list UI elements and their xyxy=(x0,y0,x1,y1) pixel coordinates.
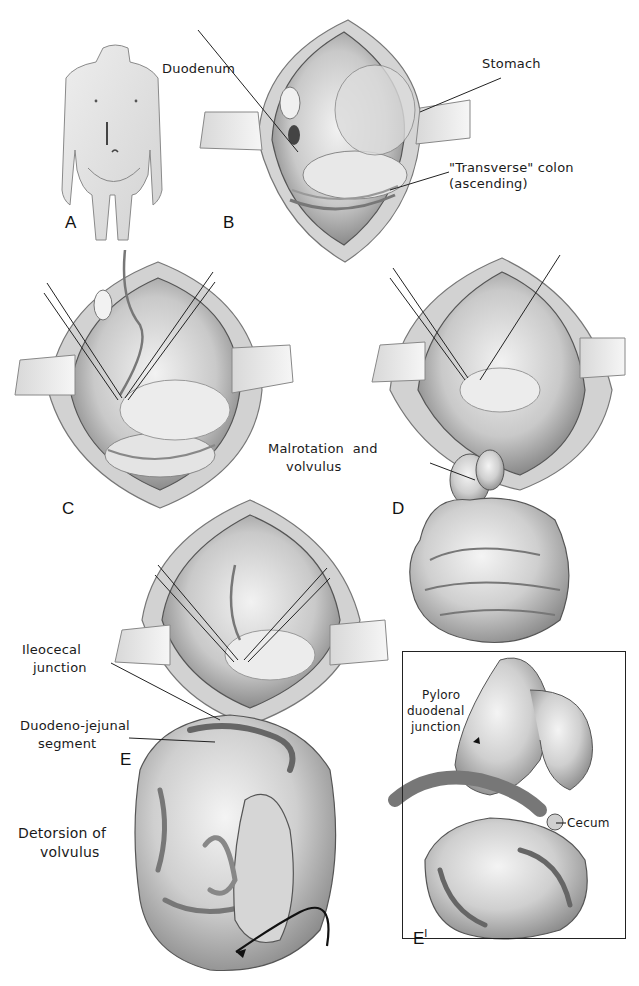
label-stomach: Stomach xyxy=(482,56,541,71)
label-detorsion-2: volvulus xyxy=(40,845,100,860)
panel-a-child-figure xyxy=(62,45,162,240)
label-ileocecal-1: Ileocecal xyxy=(22,642,81,657)
label-malrotation-1: Malrotation and xyxy=(268,441,378,456)
panel-letter-a: A xyxy=(65,214,76,232)
panel-letter-b: B xyxy=(223,214,234,232)
label-pyloro-1: Pyloro xyxy=(422,688,460,703)
label-duodenojejunal-2: segment xyxy=(38,736,96,751)
label-cecum: Cecum xyxy=(567,816,610,831)
panel-e-detorsion xyxy=(111,500,388,971)
label-detorsion-1: Detorsion of xyxy=(18,826,106,841)
panel-letter-c: C xyxy=(62,500,74,518)
panel-letter-e1-base: E xyxy=(413,929,424,948)
label-duodenojejunal-1: Duodeno-jejunal xyxy=(20,718,130,733)
label-pyloro-3: junction xyxy=(411,720,461,735)
panel-letter-e1: EI xyxy=(413,924,427,948)
label-malrotation-2: volvulus xyxy=(286,459,341,474)
panel-b-open-abdomen xyxy=(198,20,501,262)
label-transverse-colon-2: (ascending) xyxy=(449,176,528,191)
label-pyloro-2: duodenal xyxy=(407,704,464,719)
panel-d-volvulus xyxy=(372,255,625,643)
label-duodenum: Duodenum xyxy=(162,61,235,76)
panel-letter-d: D xyxy=(392,500,404,518)
panel-letter-e: E xyxy=(120,751,131,769)
panel-letter-e1-superscript: I xyxy=(424,927,427,939)
label-ileocecal-2: junction xyxy=(33,660,87,675)
panel-c-open-abdomen-sutures xyxy=(15,250,293,508)
figure: Duodenum Stomach "Transverse" colon (asc… xyxy=(0,0,639,986)
label-transverse-colon-1: "Transverse" colon xyxy=(449,160,574,175)
